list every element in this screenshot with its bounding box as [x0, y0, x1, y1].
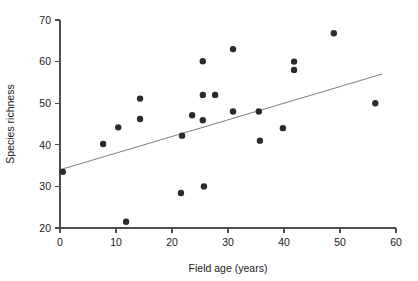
data-point [137, 95, 143, 101]
y-tick-label: 70 [39, 14, 51, 26]
data-point [200, 117, 206, 123]
y-tick-label: 20 [39, 222, 51, 234]
data-point [179, 132, 185, 138]
data-points-group [60, 30, 379, 225]
x-tick-label: 50 [334, 236, 346, 248]
data-point [201, 183, 207, 189]
data-point [200, 92, 206, 98]
y-axis-ticks: 203040506070 [39, 14, 60, 234]
x-tick-label: 60 [390, 236, 402, 248]
data-point [256, 108, 262, 114]
y-tick-label: 30 [39, 180, 51, 192]
x-tick-label: 10 [110, 236, 122, 248]
trend-line-group [60, 74, 382, 170]
scatter-plot-figure: 203040506070 0102030405060 Field age (ye… [0, 0, 418, 281]
data-point [291, 58, 297, 64]
data-point [331, 30, 337, 36]
y-tick-label: 50 [39, 97, 51, 109]
data-point [212, 92, 218, 98]
x-axis-ticks: 0102030405060 [57, 228, 402, 248]
x-tick-label: 40 [278, 236, 290, 248]
data-point [230, 46, 236, 52]
data-point [137, 116, 143, 122]
data-point [178, 190, 184, 196]
data-point [372, 100, 378, 106]
y-tick-label: 60 [39, 55, 51, 67]
y-tick-label: 40 [39, 139, 51, 151]
data-point [100, 141, 106, 147]
plot-canvas: 203040506070 0102030405060 Field age (ye… [0, 0, 418, 281]
data-point [60, 169, 66, 175]
data-point [280, 125, 286, 131]
y-axis-title: Species richness [4, 84, 16, 163]
data-point [257, 137, 263, 143]
x-tick-label: 20 [166, 236, 178, 248]
x-tick-label: 30 [222, 236, 234, 248]
data-point [189, 112, 195, 118]
x-tick-label: 0 [57, 236, 63, 248]
data-point [200, 58, 206, 64]
data-point [115, 124, 121, 130]
regression-trend-line [60, 74, 382, 170]
data-point [291, 67, 297, 73]
data-point [123, 219, 129, 225]
data-point [230, 108, 236, 114]
x-axis-title: Field age (years) [189, 262, 268, 274]
